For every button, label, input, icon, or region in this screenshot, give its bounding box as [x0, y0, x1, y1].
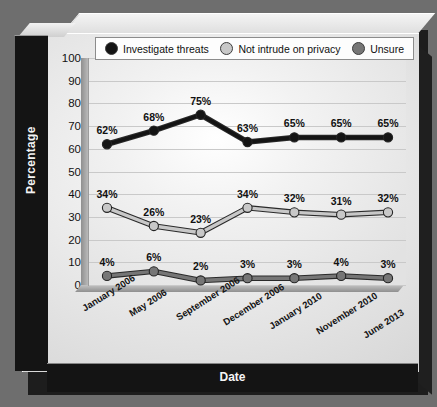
- data-point-label: 4%: [334, 256, 349, 268]
- data-point-label: 2%: [193, 260, 208, 272]
- data-point: [337, 271, 346, 280]
- chart-figure: Percentage Date 0102030405060708090100 6…: [0, 0, 437, 407]
- data-point-label: 3%: [287, 258, 302, 270]
- data-point: [337, 210, 346, 219]
- data-point-label: 34%: [96, 188, 117, 200]
- data-point: [290, 208, 299, 217]
- data-point-label: 4%: [99, 256, 114, 268]
- y-axis-tick-label: 20: [68, 234, 81, 246]
- data-point-label: 32%: [377, 192, 398, 204]
- data-point: [149, 221, 158, 230]
- chart-legend: Investigate threatsNot intrude on privac…: [95, 37, 414, 60]
- gridline: [89, 285, 406, 286]
- y-axis-tick-label: 10: [68, 256, 81, 268]
- legend-item[interactable]: Investigate threats: [105, 42, 209, 55]
- data-point: [290, 133, 299, 142]
- series-lines: [89, 58, 406, 285]
- data-point-label: 23%: [190, 213, 211, 225]
- y-axis-tick-label: 90: [68, 75, 81, 87]
- legend-label: Unsure: [370, 43, 404, 55]
- data-point: [383, 133, 392, 142]
- data-point-label: 32%: [284, 192, 305, 204]
- y-axis-tick-label: 50: [68, 166, 81, 178]
- data-point: [337, 133, 346, 142]
- data-point-label: 26%: [143, 206, 164, 218]
- y-axis-tick-label: 80: [68, 97, 81, 109]
- legend-item[interactable]: Unsure: [352, 42, 404, 55]
- x-axis-tick-label: June 2013: [361, 307, 406, 341]
- data-point-label: 63%: [237, 122, 258, 134]
- data-point: [383, 208, 392, 217]
- data-point: [102, 271, 111, 280]
- y-axis-tick-label: 60: [68, 143, 81, 155]
- data-point: [243, 274, 252, 283]
- data-point: [102, 140, 111, 149]
- y-axis-wall: [81, 58, 88, 288]
- y-axis-tick-label: 30: [68, 211, 81, 223]
- data-point-label: 65%: [377, 117, 398, 129]
- data-point-label: 3%: [380, 258, 395, 270]
- data-point-label: 31%: [331, 195, 352, 207]
- data-point-label: 65%: [331, 117, 352, 129]
- y-axis-tick-labels: 0102030405060708090100: [47, 45, 83, 345]
- data-point: [383, 274, 392, 283]
- data-point-label: 62%: [96, 124, 117, 136]
- plot-area: 62%68%75%63%65%65%65%34%26%23%34%32%31%3…: [88, 58, 406, 286]
- data-point: [290, 274, 299, 283]
- legend-marker-icon: [352, 42, 365, 55]
- panel-right-bevel: [418, 45, 432, 395]
- data-point-label: 75%: [190, 95, 211, 107]
- legend-marker-icon: [105, 42, 118, 55]
- data-point-label: 65%: [284, 117, 305, 129]
- data-point: [196, 110, 205, 119]
- x-axis-title: Date: [47, 363, 418, 391]
- data-point: [149, 267, 158, 276]
- x-axis-tick-labels: January 2006May 2006September 2006Decemb…: [88, 292, 408, 362]
- data-point: [102, 203, 111, 212]
- y-axis-tick-label: 70: [68, 120, 81, 132]
- data-point: [196, 228, 205, 237]
- data-point-label: 68%: [143, 111, 164, 123]
- data-point-label: 6%: [146, 251, 161, 263]
- y-axis-tick-label: 100: [62, 52, 81, 64]
- legend-marker-icon: [220, 42, 233, 55]
- legend-item[interactable]: Not intrude on privacy: [220, 42, 340, 55]
- data-point-label: 3%: [240, 258, 255, 270]
- y-axis-title: Percentage: [14, 35, 47, 285]
- data-point: [243, 137, 252, 146]
- legend-label: Investigate threats: [123, 43, 209, 55]
- data-point: [149, 126, 158, 135]
- legend-label: Not intrude on privacy: [238, 43, 340, 55]
- y-axis-tick-label: 40: [68, 188, 81, 200]
- data-point-label: 34%: [237, 188, 258, 200]
- data-point: [243, 203, 252, 212]
- data-point: [196, 276, 205, 285]
